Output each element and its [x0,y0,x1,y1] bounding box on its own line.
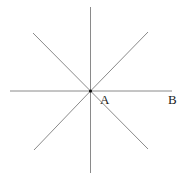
ray-southwest [34,91,91,150]
label-a: A [100,92,110,107]
label-b: B [168,92,177,107]
eight-ray-diagram: A B [0,0,189,185]
center-point [89,89,92,92]
ray-northwest [33,33,91,91]
ray-northeast [91,32,149,91]
